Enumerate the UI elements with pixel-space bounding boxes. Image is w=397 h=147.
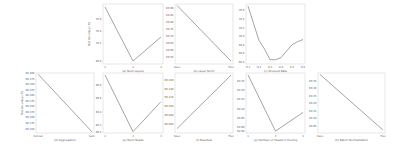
- y-tick-label: 69.080: [164, 114, 173, 117]
- plot-frame: [246, 4, 305, 64]
- y-tick-label: 69.325: [25, 89, 34, 92]
- y-tick-label: 69.150: [25, 128, 34, 131]
- x-tick-label: 1: [104, 135, 106, 138]
- y-tick-label: 69.25: [237, 80, 245, 83]
- plot-frame: [246, 73, 305, 133]
- y-tick-label: 69.4: [239, 61, 245, 64]
- x-tick-label: 3: [160, 135, 162, 138]
- x-tick-label: Concat: [33, 135, 42, 138]
- y-tick-label: 69.00: [237, 126, 245, 129]
- subplot-3: 69.469.669.870.070.270.470.60.10.20.30.4…: [239, 4, 306, 73]
- x-tick-label: False: [317, 135, 324, 138]
- y-tick-label: 69.30: [309, 87, 317, 90]
- y-tick-label: 69.75: [166, 28, 174, 31]
- y-tick-label: 69.05: [237, 117, 245, 120]
- y-tick-label: 69.120: [164, 96, 173, 99]
- y-tick-label: 69.25: [309, 95, 317, 98]
- x-axis-label: (e) Num Heads: [122, 138, 144, 142]
- y-tick-label: 69.375: [25, 78, 34, 81]
- y-tick-label: 69.15: [309, 110, 317, 113]
- y-tick-label: 69.350: [25, 83, 34, 86]
- x-tick-label: 1: [247, 135, 249, 138]
- y-tick-label: 69.90: [166, 7, 174, 10]
- figure: 69.970.270.470.6123(a) Num LayersTest Ac…: [0, 0, 397, 147]
- y-tick-label: 69.9: [96, 60, 102, 63]
- y-tick-label: 69.175: [25, 122, 34, 125]
- y-axis-label: Test Accuracy (%): [87, 22, 91, 48]
- y-tick-label: 69.60: [166, 49, 174, 52]
- x-tick-label: True: [228, 135, 234, 138]
- x-axis-label: (c) Dropout Rate: [264, 69, 287, 73]
- y-tick-label: 70.2: [96, 42, 102, 45]
- x-tick-label: 3: [160, 66, 162, 69]
- y-tick-label: 69.2: [96, 124, 102, 127]
- x-tick-label: 1: [104, 66, 106, 69]
- y-tick-label: 69.35: [309, 80, 317, 83]
- y-tick-label: 69.20: [309, 102, 317, 105]
- x-axis-label: (h) Batch Normalization: [335, 138, 368, 142]
- y-tick-label: 70.4: [239, 18, 245, 21]
- y-tick-label: 69.10: [237, 108, 245, 111]
- x-axis-label: (f) Residual: [196, 138, 212, 142]
- y-tick-label: 69.70: [166, 35, 174, 38]
- x-tick-label: Sum: [89, 135, 95, 138]
- x-tick-label: 0.5: [290, 66, 294, 69]
- x-axis-label: (b) Layer Norm: [193, 69, 214, 73]
- subplot-1: 69.970.270.470.6123(a) Num LayersTest Ac…: [87, 4, 163, 73]
- y-tick-label: 69.1: [96, 131, 102, 134]
- y-tick-label: 70.0: [239, 35, 245, 38]
- y-tick-label: 69.8: [96, 84, 102, 87]
- plot-frame: [103, 4, 163, 64]
- y-tick-label: 69.140: [164, 88, 173, 91]
- y-tick-label: 69.85: [166, 14, 174, 17]
- y-tick-label: 69.160: [164, 79, 173, 82]
- plot-frame: [103, 73, 163, 133]
- x-tick-label: 0.1: [246, 66, 250, 69]
- subplot-5: 69.169.269.469.669.8123(e) Num Heads: [96, 73, 163, 142]
- y-axis-label: Test Accuracy (%): [20, 91, 24, 117]
- y-tick-label: 69.10: [309, 117, 317, 120]
- x-axis-label: (d) Aggregation: [54, 138, 76, 142]
- plot-frame: [175, 4, 233, 64]
- y-tick-label: 69.55: [166, 56, 174, 59]
- y-tick-label: 69.225: [25, 111, 34, 114]
- y-tick-label: 69.060: [164, 123, 173, 126]
- y-tick-label: 69.05: [309, 125, 317, 128]
- x-tick-label: False: [174, 66, 181, 69]
- y-tick-label: 69.400: [25, 72, 34, 75]
- y-tick-label: 69.250: [25, 105, 34, 108]
- y-tick-label: 69.100: [164, 105, 173, 108]
- x-tick-label: True: [228, 66, 234, 69]
- y-tick-label: 70.6: [239, 9, 245, 12]
- x-tick-label: 3: [302, 135, 304, 138]
- subplot-7: 68.9869.0069.0569.1069.1569.2069.25123(g…: [237, 73, 305, 142]
- y-tick-label: 69.8: [239, 44, 245, 47]
- y-tick-label: 68.98: [237, 130, 245, 133]
- y-tick-label: 69.65: [166, 42, 174, 45]
- y-tick-label: 69.15: [237, 98, 245, 101]
- subplot-4: 69.15069.17569.20069.22569.25069.27569.3…: [20, 72, 95, 142]
- y-tick-label: 70.6: [96, 18, 102, 21]
- x-axis-label: (g) Number of Heads in Pooling: [254, 138, 298, 142]
- y-tick-label: 69.300: [25, 94, 34, 97]
- subplot-6: 69.06069.08069.10069.12069.14069.160Fals…: [164, 73, 234, 142]
- y-tick-label: 69.200: [25, 116, 34, 119]
- x-tick-label: 0.6: [301, 66, 305, 69]
- subplot-8: 69.0569.1069.1569.2069.2569.3069.35False…: [309, 73, 386, 142]
- subplot-2: 69.5569.6069.6569.7069.7569.8069.8569.90…: [166, 4, 234, 73]
- x-tick-label: True: [380, 135, 386, 138]
- y-tick-label: 70.2: [239, 27, 245, 30]
- y-tick-label: 69.20: [237, 89, 245, 92]
- y-tick-label: 69.4: [96, 111, 102, 114]
- y-tick-label: 69.275: [25, 100, 34, 103]
- y-tick-label: 69.6: [239, 52, 245, 55]
- x-axis-label: (a) Num Layers: [122, 69, 144, 73]
- y-tick-label: 70.4: [96, 30, 102, 33]
- x-tick-label: 0.2: [257, 66, 261, 69]
- y-tick-label: 69.6: [96, 97, 102, 100]
- y-tick-label: 69.80: [166, 21, 174, 24]
- x-tick-label: False: [174, 135, 181, 138]
